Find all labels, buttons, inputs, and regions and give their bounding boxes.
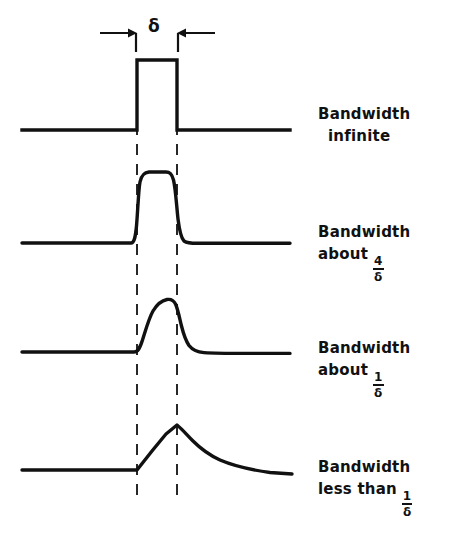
trace-about-4-over-delta-path (22, 172, 290, 243)
trace-infinite-path (22, 60, 290, 130)
bandwidth-pulse-figure: δ Bandwidth infinite Bandwidth about4δ B… (0, 0, 462, 538)
trace-about-1-over-delta (22, 299, 290, 353)
trace-less-than-1-over-delta-path (22, 425, 292, 474)
trace-about-4-over-delta (22, 172, 290, 243)
trace-about-1-over-delta-path (22, 299, 290, 353)
waveform-canvas (0, 0, 462, 538)
trace-less-than-1-over-delta (22, 425, 292, 474)
pulse-width-dimension-marker (100, 29, 215, 53)
trace-infinite (22, 60, 290, 130)
